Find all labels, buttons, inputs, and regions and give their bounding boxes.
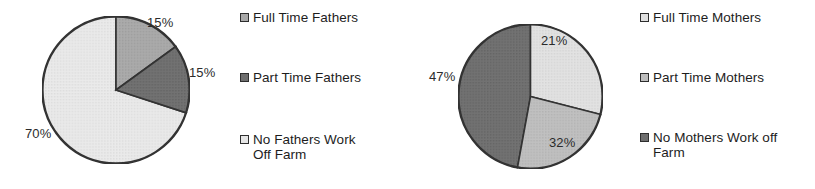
fathers-pie-svg: [42, 16, 190, 164]
mothers-chart-panel: 21% 32% 47% Full Time Mothers Part Time …: [407, 0, 815, 189]
legend-label-part-time-fathers: Part Time Fathers: [253, 70, 361, 85]
legend-item-no-fathers-work-off-farm: No Fathers Work Off Farm: [240, 132, 356, 162]
legend-swatch-icon: [240, 135, 249, 144]
legend-swatch-icon: [640, 13, 649, 22]
mothers-part-time-percent-label: 32%: [549, 136, 575, 149]
legend-item-full-time-fathers: Full Time Fathers: [240, 10, 358, 25]
legend-swatch-icon: [240, 13, 249, 22]
fathers-none-percent-label: 70%: [25, 127, 51, 140]
mothers-slice-none: [458, 24, 531, 168]
fathers-pie-chart: [42, 16, 190, 164]
fathers-full-time-percent-label: 15%: [147, 16, 173, 29]
mothers-pie-chart: [458, 24, 603, 169]
legend-label-no-mothers-work-off-farm: No Mothers Work off Farm: [653, 130, 777, 160]
legend-swatch-icon: [640, 73, 649, 82]
legend-swatch-icon: [240, 73, 249, 82]
legend-label-no-fathers-work-off-farm: No Fathers Work Off Farm: [253, 132, 356, 162]
mothers-none-percent-label: 47%: [429, 70, 455, 83]
legend-label-part-time-mothers: Part Time Mothers: [653, 70, 764, 85]
pie-chart-figure: 15% 15% 70% Full Time Fathers Part Time …: [0, 0, 815, 189]
mothers-pie-svg: [458, 24, 603, 169]
legend-item-part-time-fathers: Part Time Fathers: [240, 70, 361, 85]
mothers-full-time-percent-label: 21%: [541, 34, 567, 47]
legend-item-part-time-mothers: Part Time Mothers: [640, 70, 764, 85]
legend-label-full-time-fathers: Full Time Fathers: [253, 10, 358, 25]
fathers-part-time-percent-label: 15%: [189, 66, 215, 79]
legend-label-full-time-mothers: Full Time Mothers: [653, 10, 761, 25]
fathers-chart-panel: 15% 15% 70% Full Time Fathers Part Time …: [0, 0, 408, 189]
legend-swatch-icon: [640, 133, 649, 142]
legend-item-no-mothers-work-off-farm: No Mothers Work off Farm: [640, 130, 777, 160]
legend-item-full-time-mothers: Full Time Mothers: [640, 10, 761, 25]
